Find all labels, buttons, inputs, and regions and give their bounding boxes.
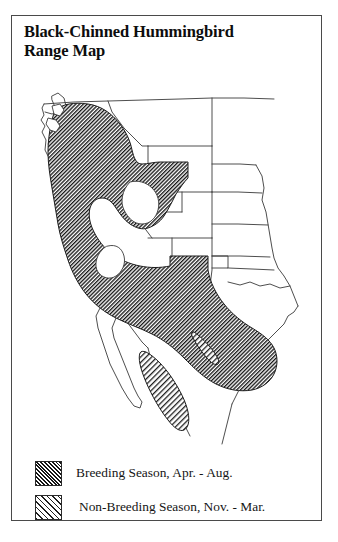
legend-swatch-nonbreeding (35, 495, 62, 520)
page-title: Black-Chinned Hummingbird Range Map (24, 22, 304, 60)
title-line-2: Range Map (24, 41, 304, 60)
map-svg (12, 60, 320, 450)
range-map (12, 60, 320, 450)
figure-frame: Black-Chinned Hummingbird Range Map (11, 15, 322, 521)
legend-label-nonbreeding: Non-Breeding Season, Nov. - Mar. (79, 499, 265, 515)
nonbreeding-season-region (139, 351, 189, 430)
legend-item-nonbreeding: Non-Breeding Season, Nov. - Mar. (35, 490, 315, 524)
title-line-1: Black-Chinned Hummingbird (24, 22, 304, 41)
legend-item-breeding: Breeding Season, Apr. - Aug. (35, 456, 315, 490)
legend-swatch-breeding (35, 461, 62, 486)
figure-page: Black-Chinned Hummingbird Range Map (0, 0, 338, 542)
legend: Breeding Season, Apr. - Aug. Non-Breedin… (35, 456, 315, 524)
legend-label-breeding: Breeding Season, Apr. - Aug. (76, 465, 233, 481)
